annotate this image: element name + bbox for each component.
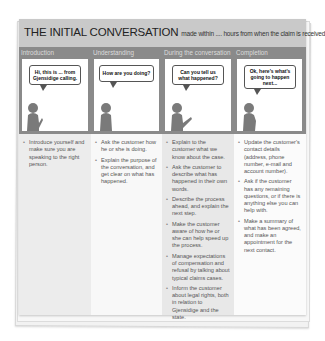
speech-bubble-tail xyxy=(254,89,261,95)
bullet-item: Ask the customer to describe what has ha… xyxy=(166,164,230,193)
comic-panel-completion: Ok, here's what's going to happen next..… xyxy=(237,59,302,131)
bullet-item: Make a summary of what has been agreed, … xyxy=(238,218,302,254)
comic-panel-introduction: Hi, this is ... from Gjensidige calling. xyxy=(22,59,88,131)
bullet-list-understanding: Ask the customer how he or she is doing.… xyxy=(95,139,159,189)
bullet-item: Update the customer's contact details (a… xyxy=(238,139,302,175)
comic-panel-during: Can you tell us what happened? xyxy=(165,59,231,131)
column-heading-introduction: Introduction xyxy=(21,49,54,56)
bullet-item: Manage expectations of compensation and … xyxy=(166,253,230,282)
speech-bubble: Can you tell us what happened? xyxy=(172,65,224,85)
person-silhouette-icon xyxy=(241,101,259,131)
bullet-item: Explain the purpose of the conversation,… xyxy=(95,157,159,186)
person-silhouette-icon xyxy=(26,101,44,131)
bullet-item: Explain to the customer what we know abo… xyxy=(166,139,230,161)
speech-bubble: Hi, this is ... from Gjensidige calling. xyxy=(29,65,81,85)
bullet-list-completion: Update the customer's contact details (a… xyxy=(238,139,302,257)
person-silhouette-icon xyxy=(98,101,116,131)
bullet-item: Make the customer aware of how he or she… xyxy=(166,221,230,250)
bullet-list-during: Explain to the customer what we know abo… xyxy=(166,139,230,324)
bullet-item: Inform the customer about legal rights, … xyxy=(166,285,230,321)
conversation-card: THE INITIAL CONVERSATIONmade within ....… xyxy=(19,19,306,315)
comic-panel-understanding: How are you doing? xyxy=(94,59,159,131)
title-bar: THE INITIAL CONVERSATIONmade within ....… xyxy=(19,19,306,47)
speech-bubble-tail xyxy=(40,85,47,91)
speech-bubble: Ok, here's what's going to happen next..… xyxy=(244,65,296,89)
column-heading-during: During the conversation xyxy=(164,49,231,56)
title-subtitle: made within .... hours from when the cla… xyxy=(181,30,325,37)
column-heading-understanding: Understanding xyxy=(93,49,134,56)
bullet-item: Ask the customer how he or she is doing. xyxy=(95,139,159,154)
person-silhouette-icon xyxy=(169,101,193,131)
bullet-list-introduction: Introduce yourself and make sure you are… xyxy=(23,139,87,171)
column-heading-completion: Completion xyxy=(236,49,268,56)
speech-bubble-tail xyxy=(183,85,190,91)
title-main-text: THE INITIAL CONVERSATION xyxy=(24,26,178,38)
bullet-item: Describe the process ahead, and explain … xyxy=(166,196,230,218)
speech-bubble-tail xyxy=(110,82,117,88)
page-title: THE INITIAL CONVERSATIONmade within ....… xyxy=(24,26,325,38)
bullet-item: Ask if the customer has any remaining qu… xyxy=(238,178,302,214)
speech-bubble: How are you doing? xyxy=(99,65,154,82)
bullet-item: Introduce yourself and make sure you are… xyxy=(23,139,87,168)
